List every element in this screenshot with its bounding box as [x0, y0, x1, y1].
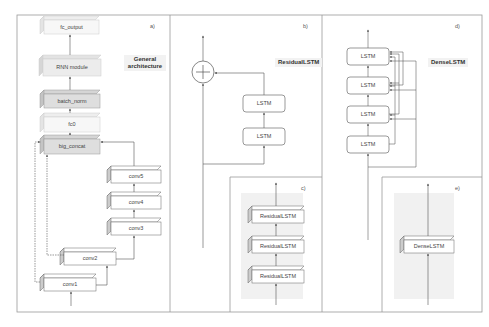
label-lstm-d-2: LSTM — [347, 82, 389, 88]
panel-title-a: General architecture — [124, 55, 166, 71]
label-conv4: conv4 — [111, 199, 161, 205]
label-lstm-d-1: LSTM — [347, 53, 389, 59]
label-residual-3: ResidualLSTM — [252, 273, 304, 279]
panel-title-d: DenseLSTM — [428, 58, 468, 67]
label-big-concat: big_concat — [44, 143, 100, 149]
label-rnn-module: RNN module — [43, 64, 101, 70]
panel-tag-d: d) — [455, 23, 460, 29]
label-lstm-d-3: LSTM — [347, 111, 389, 117]
panel-tag-a: a) — [150, 23, 155, 29]
panel-tag-b: b) — [303, 23, 308, 29]
label-conv3: conv3 — [111, 225, 161, 231]
label-residual-2: ResidualLSTM — [252, 243, 304, 249]
label-conv2: conv2 — [64, 255, 116, 261]
label-residual-1: ResidualLSTM — [252, 213, 304, 219]
diagram-canvas — [0, 0, 489, 327]
panel-title-b: ResidualLSTM — [275, 58, 322, 67]
label-batch-norm: batch_norm — [44, 98, 100, 104]
label-lstm-b-bottom: LSTM — [243, 133, 285, 139]
panel-tag-e: e) — [455, 185, 460, 191]
label-fc-output: fc_output — [44, 24, 99, 30]
label-conv1: conv1 — [44, 281, 96, 287]
label-conv5: conv5 — [111, 173, 161, 179]
panel-tag-c: c) — [301, 185, 306, 191]
label-dense-lstm: DenseLSTM — [404, 243, 454, 249]
label-fc0: fc0 — [44, 121, 100, 127]
label-lstm-b-top: LSTM — [243, 100, 285, 106]
label-lstm-d-4: LSTM — [347, 141, 389, 147]
